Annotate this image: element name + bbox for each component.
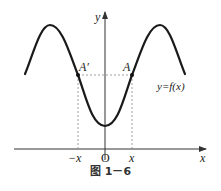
x-axis-label: x: [200, 152, 205, 164]
neg-x-tick-label: −x: [68, 152, 81, 164]
point-a-label: A: [123, 61, 130, 73]
function-label: y=f(x): [157, 81, 185, 92]
diagram-canvas: [0, 0, 221, 191]
y-axis-label: y: [95, 11, 100, 23]
x-tick-label: x: [129, 152, 134, 164]
point-a: [130, 73, 134, 77]
figure-caption: 图 1－6: [90, 166, 131, 177]
origin-label: O: [101, 152, 110, 164]
point-a-prime-label: A′: [79, 61, 89, 73]
